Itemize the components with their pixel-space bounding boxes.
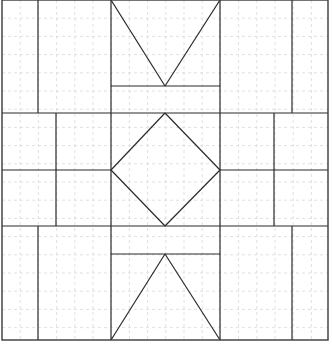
- quilt-block-diagram: [0, 0, 332, 351]
